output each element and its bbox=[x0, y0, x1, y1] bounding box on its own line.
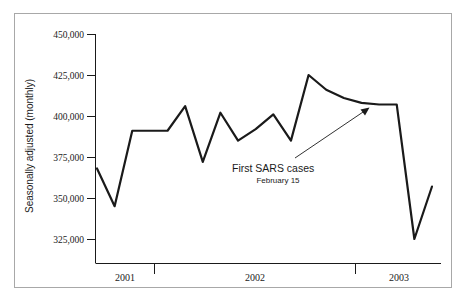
annotation-arrow bbox=[295, 108, 370, 159]
y-tick-label: 325,000 bbox=[53, 235, 84, 245]
y-tick-label: 350,000 bbox=[53, 194, 84, 204]
x-tick-label-2001: 2001 bbox=[115, 272, 135, 283]
y-axis-tick-labels: 450,000 425,000 400,000 375,000 350,000 … bbox=[53, 30, 84, 245]
annotation-sublabel: February 15 bbox=[256, 176, 300, 185]
y-tick-label: 425,000 bbox=[53, 71, 84, 81]
figure-container: Seasonally adjusted (monthly) 450,000 42… bbox=[0, 0, 466, 301]
x-tick-label-2003: 2003 bbox=[389, 272, 409, 283]
y-axis-ticks bbox=[87, 35, 95, 240]
x-tick-label-2002: 2002 bbox=[245, 272, 265, 283]
y-tick-label: 400,000 bbox=[53, 112, 84, 122]
y-axis-title: Seasonally adjusted (monthly) bbox=[24, 79, 35, 213]
annotation-label: First SARS cases bbox=[232, 162, 314, 174]
x-axis-year-labels: 2001 2002 2003 bbox=[115, 272, 409, 283]
line-chart: Seasonally adjusted (monthly) 450,000 42… bbox=[0, 0, 466, 301]
data-series-line bbox=[97, 75, 432, 239]
y-tick-label: 450,000 bbox=[53, 30, 84, 40]
y-tick-label: 375,000 bbox=[53, 153, 84, 163]
